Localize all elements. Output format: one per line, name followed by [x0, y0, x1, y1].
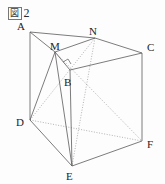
edge-D-N [30, 38, 95, 120]
edge-N-E [72, 38, 95, 166]
vertex-label-D: D [16, 116, 24, 128]
edge-E-F [72, 141, 142, 166]
vertex-label-C: C [147, 41, 154, 53]
edge-M-N [55, 38, 95, 52]
edge-D-E [30, 120, 72, 166]
vertex-label-B: B [64, 76, 71, 88]
edge-B-C [70, 53, 142, 70]
vertex-label-M: M [50, 40, 60, 52]
vertex-label-F: F [147, 138, 153, 150]
edge-A-N [30, 32, 95, 38]
figure-container: 図2 ABCDEFMN [0, 0, 165, 184]
edge-M-D [30, 52, 55, 120]
edge-M-F [55, 52, 142, 141]
vertex-label-A: A [17, 20, 25, 32]
prism-diagram: ABCDEFMN [0, 0, 165, 184]
edge-N-C [95, 38, 142, 53]
vertex-label-N: N [89, 25, 97, 37]
vertex-label-E: E [66, 170, 73, 182]
edge-layer [30, 32, 142, 166]
